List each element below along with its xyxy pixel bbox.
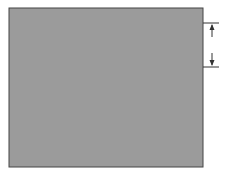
outer-frame: [9, 8, 203, 167]
zigzag-diagram: [0, 0, 227, 173]
height-dimension: [203, 23, 219, 67]
up-arrow-icon: [210, 24, 215, 30]
down-arrow-icon: [210, 60, 215, 66]
